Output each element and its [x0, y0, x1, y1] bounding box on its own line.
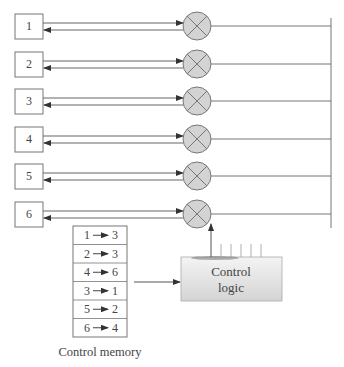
port-row: 6 [15, 200, 331, 228]
memory-to: 3 [112, 247, 118, 261]
port-row: 1 [15, 12, 331, 40]
port-label: 1 [26, 19, 32, 33]
crosspoint-icon [183, 12, 211, 40]
port-label: 6 [26, 207, 32, 221]
crosspoint-icon [183, 87, 211, 115]
control-logic-label-line2: logic [218, 280, 244, 295]
memory-from: 5 [84, 302, 90, 316]
memory-from: 2 [84, 247, 90, 261]
memory-to: 1 [112, 284, 118, 298]
crosspoint-icon [183, 50, 211, 78]
control-memory-table: 132346315264 [73, 226, 127, 337]
control-logic-label-line1: Control [211, 264, 251, 279]
port-row: 2 [15, 50, 331, 78]
memory-to: 4 [112, 321, 118, 335]
port-row: 5 [15, 162, 331, 190]
port-rows: 123456 [15, 12, 331, 228]
port-label: 5 [26, 169, 32, 183]
port-label: 3 [26, 94, 32, 108]
crosspoint-icon [183, 125, 211, 153]
memory-from: 3 [84, 284, 90, 298]
crosspoint-icon [183, 200, 211, 228]
control-logic-box: Control logic [181, 224, 282, 301]
control-memory-caption: Control memory [59, 345, 143, 359]
memory-to: 2 [112, 302, 118, 316]
port-row: 4 [15, 125, 331, 153]
memory-to: 6 [112, 265, 118, 279]
memory-to: 3 [112, 228, 118, 242]
crosspoint-icon [183, 162, 211, 190]
port-label: 4 [26, 132, 32, 146]
switch-diagram: 123456 132346315264 Control memory Contr… [0, 0, 344, 367]
memory-from: 1 [84, 228, 90, 242]
port-row: 3 [15, 87, 331, 115]
memory-from: 4 [84, 265, 90, 279]
port-label: 2 [26, 57, 32, 71]
memory-from: 6 [84, 321, 90, 335]
